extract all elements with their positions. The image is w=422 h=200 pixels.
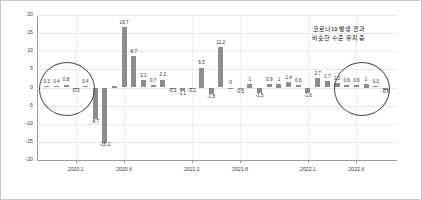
bar-value-label: 1	[278, 78, 281, 83]
bar	[296, 85, 301, 87]
bar	[228, 88, 233, 89]
bar-value-label: -15.2	[99, 143, 109, 148]
highlight-circle-recent-level	[334, 62, 390, 116]
bar	[325, 81, 330, 87]
bar-value-label: 0.9	[266, 78, 272, 83]
x-tick-label: 2021.6	[232, 167, 248, 172]
bar	[160, 80, 165, 88]
x-tick-label: 2021.1	[184, 167, 200, 172]
gridline	[37, 142, 397, 143]
bar-value-label: 8.7	[131, 50, 137, 55]
bar	[286, 82, 291, 87]
bar	[199, 68, 204, 88]
bar	[131, 56, 136, 88]
bar-value-label: 16.7	[120, 21, 129, 26]
y-tick-label: 20	[27, 12, 33, 17]
gridline	[37, 160, 397, 161]
bar	[151, 85, 156, 88]
y-tick-label: 10	[27, 49, 33, 54]
bar-value-label: -1.5	[256, 94, 264, 99]
bar-value-label: 0.6	[295, 79, 301, 84]
bar	[141, 80, 146, 88]
y-tick-label: -15	[26, 139, 34, 144]
y-tick-label: 15	[27, 31, 33, 36]
y-tick-label: -20	[26, 157, 34, 162]
x-tick-mark	[192, 160, 193, 163]
bar	[267, 84, 272, 87]
bar-value-label: -1.6	[304, 94, 312, 99]
x-tick-label: 2022.6	[348, 167, 364, 172]
highlight-circle-pre-covid-baseline	[39, 62, 95, 116]
bar	[122, 27, 127, 88]
y-tick-label: -10	[26, 121, 34, 126]
x-tick-mark	[356, 160, 357, 163]
x-tick-mark	[308, 160, 309, 163]
bar-value-label: -0.2	[188, 89, 196, 94]
bar-value-label: 5.5	[198, 61, 204, 66]
x-tick-mark	[76, 160, 77, 163]
bar	[102, 88, 107, 143]
bar-value-label: 1	[249, 78, 252, 83]
bar-value-label: 2.1	[140, 74, 146, 79]
chart-card: 0.30.40.8-0.30.4-8.7-15.216.78.72.10.72.…	[0, 0, 422, 200]
bar-value-label: 2.7	[314, 72, 320, 77]
bar	[315, 78, 320, 88]
y-tick-label: 0	[30, 85, 33, 90]
x-tick-mark	[240, 160, 241, 163]
x-tick-mark	[124, 160, 125, 163]
bar	[112, 86, 117, 88]
bar-value-label: 1.7	[324, 75, 330, 80]
bar-value-label: 1.4	[285, 76, 291, 81]
annotation-note: 코로나19 발생 전과 비슷한 수준 유지 중	[287, 25, 391, 42]
gridline	[37, 51, 397, 52]
x-tick-label: 2022.1	[300, 167, 316, 172]
bar-value-label: 0	[229, 81, 232, 86]
gridline	[37, 15, 397, 16]
bar-value-label: -1.8	[207, 95, 215, 100]
x-tick-label: 2020.6	[116, 167, 132, 172]
bar-value-label: -0.3	[169, 89, 177, 94]
y-tick-label: 5	[30, 67, 33, 72]
bar	[218, 47, 223, 88]
bar	[247, 84, 252, 88]
bar-value-label: 11.2	[217, 41, 226, 46]
bar-value-label: 0.7	[150, 79, 156, 84]
bar-value-label: 2.2	[160, 73, 166, 78]
bar	[276, 84, 281, 88]
bar-value-label: -8.7	[91, 120, 99, 125]
bar-value-label: -1.1	[178, 92, 186, 97]
bar-value-label: -0.5	[236, 90, 244, 95]
x-tick-label: 2020.1	[68, 167, 84, 172]
y-tick-label: -5	[28, 103, 33, 108]
